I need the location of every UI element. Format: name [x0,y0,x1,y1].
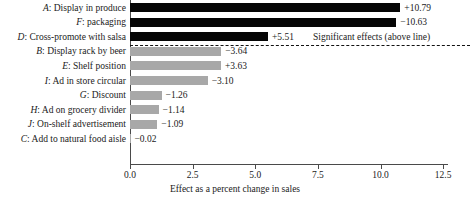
x-tick-0 [130,165,131,169]
x-tick-label-3: 7.5 [312,171,324,181]
category-label-j: J: On-shelf advertisement [0,120,126,130]
bar-value-h: −1.14 [163,106,185,116]
category-key: A [43,3,49,13]
x-axis-line [130,164,448,165]
category-key: H [30,105,37,115]
x-tick-label-4: 10.0 [372,171,389,181]
bar-value-f: −10.63 [400,18,427,28]
bar-b [130,47,221,56]
category-name: Add to natural food aisle [32,134,126,144]
bar-e [130,61,221,70]
category-key: I [45,76,48,86]
bar-i [130,76,208,85]
bar-a [130,3,400,12]
category-name: Shelf position [73,61,126,71]
x-tick-label-0: 0.0 [124,171,136,181]
bar-value-e: +3.63 [225,62,247,72]
category-name: Ad in store circular [52,76,126,86]
bar-g [130,91,162,100]
category-label-c: C: Add to natural food aisle [0,135,126,145]
category-label-e: E: Shelf position [0,62,126,72]
category-label-d: D: Cross-promote with salsa [0,33,126,43]
bar-value-a: +10.79 [404,4,431,14]
bar-value-b: −3.64 [225,47,247,57]
category-name: Display in produce [54,3,126,13]
bar-c [130,134,131,143]
category-name: Ad on grocery divider [42,105,126,115]
bar-value-c: −0.02 [135,135,157,145]
category-key: J [28,119,32,129]
bar-d [130,32,268,41]
category-key: F [76,17,82,27]
category-name: On-shelf advertisement [37,119,126,129]
bar-f [130,18,396,27]
x-axis-title: Effect as a percent change in sales [0,185,470,195]
category-key: G [80,90,87,100]
x-tick-1 [193,165,194,169]
category-name: Display rack by beer [47,46,126,56]
plot-area: Significant effects (above line) +10.79−… [130,0,470,165]
bar-h [130,105,159,114]
x-tick-3 [318,165,319,169]
bar-j [130,120,157,129]
category-label-f: F: packaging [0,18,126,28]
category-key: E [62,61,68,71]
category-key: B [36,46,42,56]
category-key: D [18,32,25,42]
bar-chart: A: Display in produceF: packagingD: Cros… [0,0,470,200]
significance-divider [130,45,470,46]
bar-value-d: +5.51 [272,33,294,43]
x-tick-label-5: 12.5 [435,171,452,181]
bar-value-g: −1.26 [166,91,188,101]
category-name: packaging [87,17,126,27]
category-label-column: A: Display in produceF: packagingD: Cros… [0,0,126,165]
significance-note: Significant effects (above line) [313,33,430,43]
x-tick-5 [443,165,444,169]
category-label-i: I: Ad in store circular [0,77,126,87]
bar-value-j: −1.09 [161,120,183,130]
category-label-h: H: Ad on grocery divider [0,106,126,116]
category-label-b: B: Display rack by beer [0,47,126,57]
x-tick-label-2: 5.0 [249,171,261,181]
x-tick-4 [381,165,382,169]
category-key: C [21,134,27,144]
x-tick-label-1: 2.5 [187,171,199,181]
category-name: Cross-promote with salsa [29,32,126,42]
category-label-a: A: Display in produce [0,4,126,14]
x-tick-2 [255,165,256,169]
category-label-g: G: Discount [0,91,126,101]
bar-value-i: −3.10 [212,77,234,87]
category-name: Discount [92,90,126,100]
